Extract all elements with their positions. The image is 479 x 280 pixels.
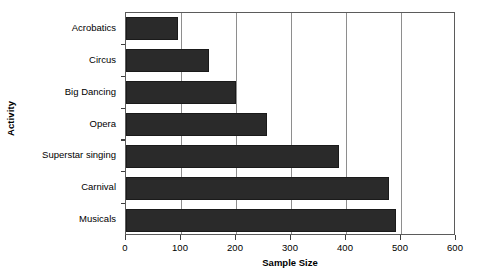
y-axis-tick-mark [121,108,125,109]
bar [126,17,178,40]
y-axis-tick-labels: AcrobaticsCircusBig DancingOperaSupersta… [18,12,120,235]
x-axis-tick-label: 600 [435,242,475,253]
x-axis-tick-mark [400,235,401,240]
gridline [401,13,402,234]
plot-area [125,12,455,235]
y-axis-tick-mark [121,44,125,45]
x-axis-tick-mark [455,235,456,240]
y-axis-tick-label: Opera [90,117,116,131]
x-axis-tick-mark [235,235,236,240]
y-axis-tick-label: Superstar singing [42,148,116,162]
x-axis-tick-mark [290,235,291,240]
x-axis-tick-label: 300 [270,242,310,253]
y-axis-tick-label: Musicals [79,212,116,226]
bar [126,113,267,136]
y-axis-tick-label: Big Dancing [65,85,116,99]
y-axis-tick-label: Circus [89,53,116,67]
x-axis-tick-mark [180,235,181,240]
y-axis-tick-mark [121,203,125,204]
x-axis-tick-label: 0 [105,242,145,253]
x-axis-tick-mark [125,235,126,240]
y-axis-tick-mark [121,139,125,140]
bar [126,49,209,72]
y-axis-tick-mark [121,76,125,77]
gridline [291,13,292,234]
x-axis-title: Sample Size [125,257,455,268]
y-axis-title-text: Activity [6,100,17,135]
y-axis-tick-label: Acrobatics [72,21,116,35]
x-axis-tick-label: 100 [160,242,200,253]
bar [126,145,339,168]
bar-chart: Activity AcrobaticsCircusBig DancingOper… [0,0,479,280]
bar [126,177,389,200]
y-axis-tick-label: Carnival [81,180,116,194]
y-axis-tick-mark [121,171,125,172]
bar [126,81,236,104]
bar [126,209,396,232]
x-axis-tick-label: 400 [325,242,365,253]
gridline [346,13,347,234]
x-axis: Sample Size 0100200300400500600 [125,235,455,280]
x-axis-tick-label: 200 [215,242,255,253]
x-axis-tick-mark [345,235,346,240]
x-axis-tick-label: 500 [380,242,420,253]
